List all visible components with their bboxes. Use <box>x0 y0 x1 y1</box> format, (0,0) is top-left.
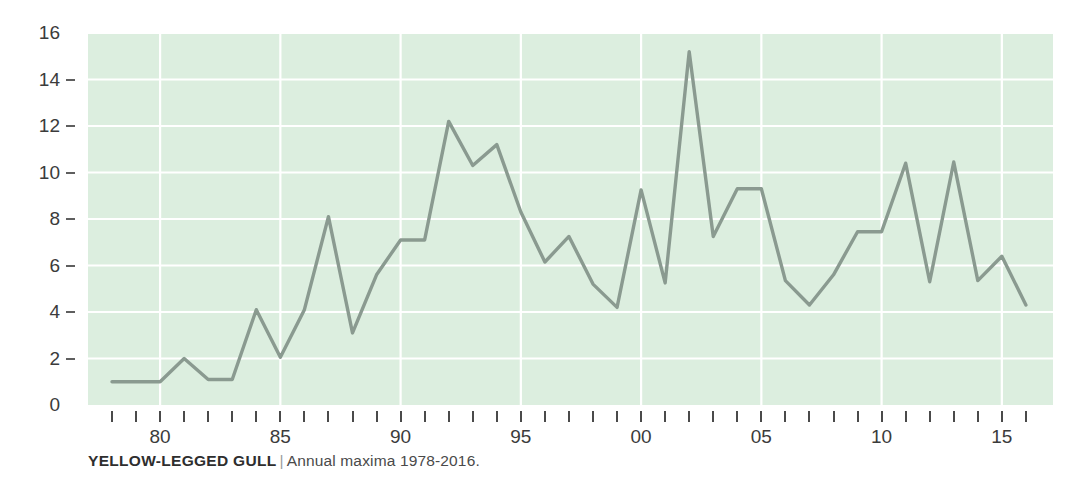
x-axis-tick-mark <box>857 411 859 422</box>
y-axis-tick-mark <box>66 311 75 313</box>
x-axis-tick-mark <box>1001 411 1003 422</box>
x-axis-tick-mark <box>376 411 378 422</box>
plot-area <box>88 33 1053 405</box>
y-axis-tick-label: 10 <box>20 163 60 182</box>
x-axis-tick-mark <box>111 411 113 422</box>
x-axis-tick-mark <box>183 411 185 422</box>
x-axis-tick-mark <box>520 411 522 422</box>
x-axis-tick-mark <box>279 411 281 422</box>
x-axis-tick-label: 85 <box>258 427 302 446</box>
y-axis-tick-label: 12 <box>20 116 60 135</box>
caption-subtitle: Annual maxima 1978-2016. <box>287 452 480 469</box>
x-axis-tick-mark <box>977 411 979 422</box>
x-axis-tick-mark <box>544 411 546 422</box>
y-axis-tick-label: 0 <box>20 395 60 414</box>
x-axis-tick-label: 10 <box>860 427 904 446</box>
y-axis-tick-label: 2 <box>20 349 60 368</box>
y-axis-tick-label: 4 <box>20 302 60 321</box>
x-axis-tick-mark <box>568 411 570 422</box>
x-axis-tick-label: 00 <box>619 427 663 446</box>
y-axis-tick-mark <box>66 79 75 81</box>
y-axis-tick-label: 6 <box>20 256 60 275</box>
y-axis-tick-mark <box>66 125 75 127</box>
x-axis-tick-mark <box>231 411 233 422</box>
x-axis-tick-mark <box>1025 411 1027 422</box>
x-axis-tick-label: 95 <box>499 427 543 446</box>
x-axis-tick-mark <box>760 411 762 422</box>
x-axis-tick-mark <box>881 411 883 422</box>
x-axis-tick-mark <box>833 411 835 422</box>
x-axis-tick-mark <box>688 411 690 422</box>
x-axis-tick-mark <box>352 411 354 422</box>
x-axis-tick-label: 80 <box>138 427 182 446</box>
y-axis-tick-label: 8 <box>20 209 60 228</box>
x-axis-tick-mark <box>400 411 402 422</box>
x-axis-tick-mark <box>424 411 426 422</box>
x-axis-tick-mark <box>784 411 786 422</box>
x-axis-tick-label: 90 <box>379 427 423 446</box>
x-axis-tick-mark <box>712 411 714 422</box>
y-axis-tick-mark <box>66 358 75 360</box>
x-axis-tick-mark <box>135 411 137 422</box>
caption-separator: | <box>277 452 287 469</box>
x-axis-tick-mark <box>664 411 666 422</box>
x-axis-tick-mark <box>472 411 474 422</box>
x-axis-tick-mark <box>616 411 618 422</box>
x-axis-tick-mark <box>736 411 738 422</box>
y-axis-tick-mark <box>66 218 75 220</box>
x-axis-tick-mark <box>159 411 161 422</box>
x-axis-tick-mark <box>905 411 907 422</box>
caption: YELLOW-LEGGED GULL|Annual maxima 1978-20… <box>88 452 480 470</box>
y-axis-tick-mark <box>66 265 75 267</box>
x-axis-tick-mark <box>448 411 450 422</box>
x-axis-tick-mark <box>640 411 642 422</box>
x-axis-tick-label: 05 <box>739 427 783 446</box>
x-axis-tick-mark <box>953 411 955 422</box>
x-axis-tick-mark <box>207 411 209 422</box>
x-axis-tick-mark <box>592 411 594 422</box>
x-axis-tick-mark <box>808 411 810 422</box>
y-axis-tick-mark <box>66 172 75 174</box>
x-axis-tick-mark <box>496 411 498 422</box>
x-axis-tick-mark <box>255 411 257 422</box>
x-axis-tick-mark <box>929 411 931 422</box>
y-axis-tick-label: 14 <box>20 70 60 89</box>
x-axis-tick-mark <box>327 411 329 422</box>
chart-figure: 0246810121416 8085909500051015 YELLOW-LE… <box>0 0 1092 485</box>
caption-title: YELLOW-LEGGED GULL <box>88 452 277 469</box>
data-line-series <box>88 33 1053 405</box>
y-axis-tick-label: 16 <box>20 23 60 42</box>
x-axis-tick-mark <box>303 411 305 422</box>
x-axis-tick-label: 15 <box>980 427 1024 446</box>
